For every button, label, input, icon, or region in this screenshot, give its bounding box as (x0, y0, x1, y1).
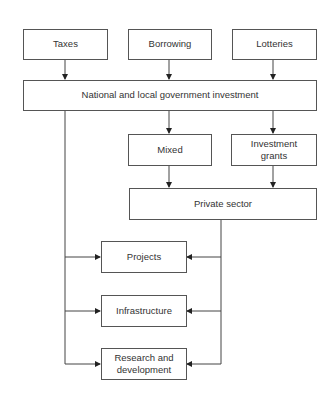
node-label: Borrowing (149, 38, 192, 50)
node-label: Mixed (157, 144, 182, 156)
node-taxes: Taxes (23, 29, 108, 60)
node-label: Infrastructure (116, 305, 172, 317)
node-projects: Projects (101, 241, 187, 273)
node-label: Taxes (53, 38, 78, 50)
node-borrowing: Borrowing (128, 29, 212, 60)
node-research-development: Research and development (101, 348, 187, 380)
node-label: Private sector (194, 198, 252, 210)
node-label: Projects (127, 251, 161, 263)
node-mixed: Mixed (128, 134, 212, 166)
node-lotteries: Lotteries (232, 29, 317, 60)
node-infrastructure: Infrastructure (101, 295, 187, 327)
node-private-sector: Private sector (129, 188, 317, 220)
node-government-investment: National and local government investment (23, 80, 317, 111)
node-label: Research and development (108, 352, 180, 377)
node-label: Lotteries (256, 38, 292, 50)
node-label: National and local government investment (82, 89, 259, 101)
node-label: Investment grants (246, 138, 302, 163)
node-investment-grants: Investment grants (231, 134, 317, 166)
